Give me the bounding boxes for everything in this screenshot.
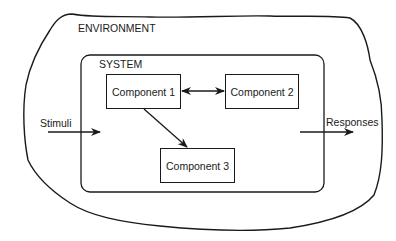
responses-label: Responses <box>326 117 379 128</box>
component-2: Component 2 <box>225 74 299 109</box>
component-3: Component 3 <box>160 148 235 183</box>
component-1-label: Component 1 <box>112 86 175 98</box>
environment-label: ENVIRONMENT <box>78 23 156 34</box>
system-label: SYSTEM <box>99 59 142 70</box>
stimuli-label: Stimuli <box>40 118 72 129</box>
component-3-label: Component 3 <box>166 160 229 172</box>
component-2-label: Component 2 <box>230 86 293 98</box>
edge-c1-c3 <box>144 109 187 147</box>
component-1: Component 1 <box>106 74 181 109</box>
